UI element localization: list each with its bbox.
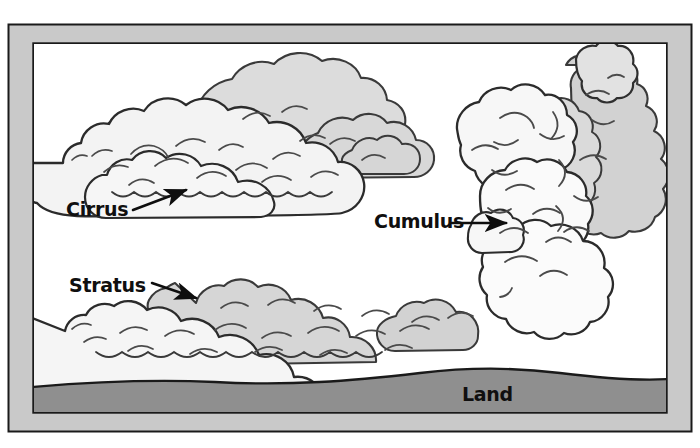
cloud-types-diagram: Land Cirrus Cumulus Stratus [0,0,700,448]
stratus-label-text: Stratus [69,274,146,296]
land-label: Land [462,383,513,405]
cumulus-label-text: Cumulus [374,210,464,232]
sky-area: Land [0,41,670,425]
cirrus-label-text: Cirrus [66,198,128,220]
diagram-canvas: Land Cirrus Cumulus Stratus [0,0,700,448]
